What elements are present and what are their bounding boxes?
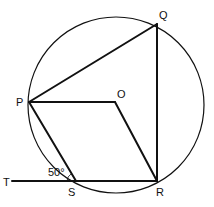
point-label-s: S	[68, 186, 75, 198]
point-label-q: Q	[159, 9, 168, 21]
point-label-t: T	[3, 176, 10, 188]
point-label-o: O	[117, 88, 126, 100]
point-label-r: R	[156, 186, 164, 198]
diagram-canvas: PQORST 50°	[0, 0, 214, 207]
segments	[12, 24, 157, 181]
geometry-diagram: PQORST 50°	[0, 0, 214, 207]
segment-pq	[29, 24, 157, 102]
segment-or	[115, 102, 157, 181]
angle-label: 50°	[48, 166, 65, 178]
point-label-p: P	[16, 96, 23, 108]
